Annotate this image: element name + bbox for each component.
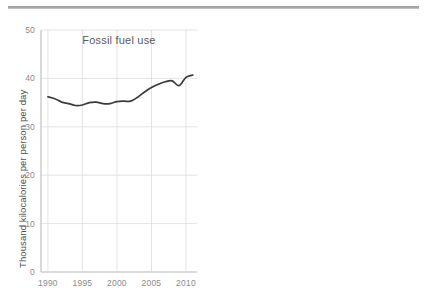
y-tick-label: 40 — [7, 73, 35, 83]
x-tick-label: 2000 — [101, 278, 133, 288]
y-tick-label: 0 — [7, 267, 35, 277]
y-tick-label: 20 — [7, 170, 35, 180]
line-chart-svg-left — [41, 30, 197, 272]
plot-area-left: Fossil fuel use — [41, 30, 197, 272]
y-tick-label: 50 — [7, 25, 35, 35]
x-tick-label: 1995 — [66, 278, 98, 288]
chart-panel-improved-water-source: % of population with access Improved wat… — [213, 0, 427, 304]
x-tick-label: 1990 — [32, 278, 64, 288]
x-tick-label: 2005 — [135, 278, 167, 288]
data-series-line — [48, 75, 193, 106]
y-tick-label: 10 — [7, 219, 35, 229]
x-tick-label: 2010 — [170, 278, 202, 288]
chart-panel-fossil-fuel-use: Thousand kilocalories per person per day… — [0, 0, 213, 304]
y-tick-label: 30 — [7, 122, 35, 132]
